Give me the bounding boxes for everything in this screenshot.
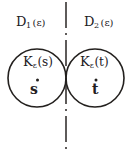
region-d1-argument: (ε) — [33, 17, 46, 28]
region-d1-base: D — [16, 14, 26, 29]
circle-label-k-epsilon-s: Kε(s) — [23, 55, 53, 70]
region-label-d2: D2(ε) — [84, 15, 114, 30]
figure-canvas: D1(ε) D2(ε) Kε(s) Kε(t) s t — [0, 0, 130, 153]
circle-label-k-epsilon-t: Kε(t) — [80, 55, 109, 70]
region-d2-base: D — [84, 14, 94, 29]
region-label-d1: D1(ε) — [16, 15, 46, 30]
k-left-base: K — [23, 54, 33, 69]
point-label-s-dot: s — [30, 82, 38, 96]
region-d2-subscript: 2 — [94, 21, 99, 30]
region-d1-subscript: 1 — [26, 21, 31, 30]
k-left-argument: (s) — [37, 55, 53, 69]
point-label-t-dot: t — [92, 82, 98, 96]
k-right-base: K — [80, 54, 90, 69]
k-right-argument: (t) — [94, 55, 108, 69]
region-d2-argument: (ε) — [101, 17, 114, 28]
